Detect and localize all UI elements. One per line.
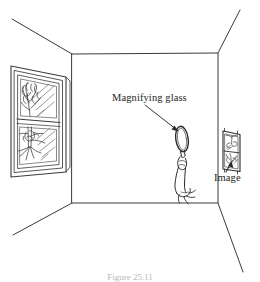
proj-trunk — [232, 137, 233, 145]
proj-leaf-1 — [227, 157, 233, 163]
lower-hand-crease — [181, 192, 188, 193]
magnifier-lens-rim — [174, 125, 190, 152]
window-frame-depth-edge — [66, 77, 70, 172]
tree-lower-trunk — [19, 127, 46, 160]
window-lower-pane — [20, 127, 57, 165]
projected-image-middle-rail — [224, 151, 239, 153]
tree-leaf-cluster-3 — [31, 84, 33, 92]
ray-u3 — [38, 102, 54, 116]
figure-illustration: Magnifying glass Image Figure 25.11 — [0, 0, 260, 282]
finger-2 — [189, 190, 196, 193]
proj-foliage-1 — [233, 142, 237, 147]
window-group — [11, 66, 70, 177]
magnifying-glass-label: Magnifying glass — [112, 92, 187, 103]
image-label: Image — [214, 172, 241, 183]
projected-inverted-content-top — [226, 135, 238, 150]
figure-caption: Figure 25.11 — [0, 272, 260, 282]
ceiling-edge-right — [218, 10, 240, 53]
ray-u5 — [36, 110, 44, 117]
tree-upper-foliage — [22, 83, 41, 117]
lower-foliage-3 — [27, 136, 33, 138]
magnifier-collar — [181, 156, 186, 158]
floor-edge-right — [218, 203, 243, 272]
hand-knuckle-1 — [180, 160, 186, 162]
ray-l2 — [40, 139, 55, 151]
leader-line-magnifier — [145, 105, 177, 130]
forearm-outline-right — [185, 168, 187, 193]
root-4 — [31, 147, 41, 153]
lower-branch-2 — [31, 140, 45, 143]
window-middle-rail-2 — [17, 124, 60, 127]
trunk-left — [28, 127, 29, 147]
scene-drawing — [0, 0, 260, 282]
ray-u2 — [36, 94, 54, 110]
ceiling-edge-left — [12, 19, 72, 54]
lower-foliage-4 — [23, 136, 24, 141]
floor-edge-left — [13, 203, 72, 235]
window-middle-rail — [17, 119, 60, 123]
lower-branch-3 — [20, 133, 29, 134]
room-shell — [12, 10, 243, 272]
magnifying-glass-leader-arrow — [145, 105, 179, 132]
magnifying-glass-and-hand — [174, 125, 195, 204]
ray-l3 — [42, 147, 55, 157]
back-wall-outline — [72, 53, 218, 203]
window-outer-frame-inner — [15, 71, 63, 173]
finger-1 — [187, 196, 196, 198]
hand-knuckle-2 — [179, 164, 185, 166]
forearm-outline-left — [175, 167, 179, 194]
sun-rays-lower — [37, 128, 55, 160]
